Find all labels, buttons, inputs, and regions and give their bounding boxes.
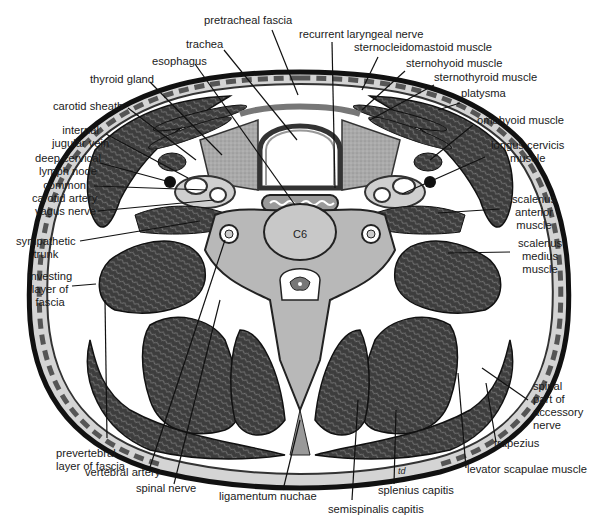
label-longus-cervicis-muscle: longus cervicis muscle	[491, 139, 564, 165]
label-ligamentum-nuchae: ligamentum nuchae	[219, 490, 317, 503]
label-investing-layer-of-fascia: investing layer of fascia	[28, 270, 72, 309]
label-sympathetic-trunk: sympathetic trunk	[16, 235, 76, 261]
label-omohyoid-muscle: omohyoid muscle	[477, 114, 564, 127]
label-trapezius: trapezius	[494, 437, 539, 450]
label-levator-scapulae-muscle: levator scapulae muscle	[467, 463, 587, 476]
label-thyroid-gland: thyroid gland	[90, 73, 154, 86]
artist-signature: td	[398, 466, 407, 476]
label-sternohyoid-muscle: sternohyoid muscle	[406, 57, 502, 70]
label-deep-cervical-lymph-node: deep cervical lymph node	[35, 152, 101, 178]
label-pretracheal-fascia: pretracheal fascia	[204, 14, 292, 27]
neck-cross-section-figure: C6	[0, 0, 596, 526]
label-sternocleidomastoid-muscle: sternocleidomastoid muscle	[354, 41, 492, 54]
label-vertebral-artery: vertebral artery	[85, 466, 160, 479]
trachea-shape	[260, 126, 340, 188]
label-splenius-capitis: splenius capitis	[378, 484, 454, 497]
label-scalenus-anterior-muscle: scalenus anterior muscle	[512, 193, 556, 232]
label-sternothyroid-muscle: sternothyroid muscle	[434, 71, 537, 84]
label-recurrent-laryngeal-nerve: recurrent laryngeal nerve	[299, 28, 423, 41]
label-internal-jugular-vein: internal jugular vein	[52, 124, 109, 150]
label-spinal-part-of-accessory-nerve: spinal part of accessory nerve	[533, 380, 583, 432]
label-trachea: trachea	[186, 38, 223, 51]
label-vagus-nerve: vagus nerve	[35, 205, 96, 218]
label-platysma: platysma	[461, 87, 506, 100]
label-carotid-sheath: carotid sheath	[53, 100, 123, 113]
label-scalenus-medius-muscle: scalenus medius muscle	[518, 237, 562, 276]
vertebra-label: C6	[293, 228, 307, 240]
label-common-carotid-artery: common carotid artery	[32, 179, 97, 205]
label-semispinalis-capitis: semispinalis capitis	[328, 503, 424, 516]
label-spinal-nerve: spinal nerve	[136, 482, 196, 495]
label-esophagus: esophagus	[152, 55, 207, 68]
